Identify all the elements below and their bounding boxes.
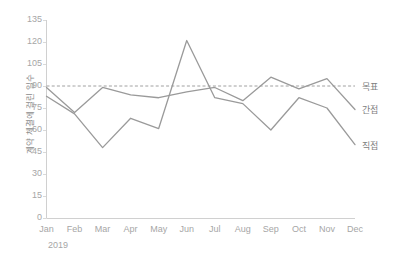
series-label-직접: 직접 [362, 139, 378, 152]
series-line-간접 [47, 77, 356, 112]
series-label-목표: 목표 [362, 80, 378, 93]
y-axis-ticks [43, 21, 47, 219]
x-axis-period-label: 2019 [48, 240, 68, 250]
x-tick-label: Dec [335, 224, 375, 234]
series-label-간접: 간접 [362, 103, 378, 116]
line-chart: 계약 체결에 걸린 일수 0153045607590105120135 JanF… [0, 0, 393, 263]
series-lines [47, 41, 356, 148]
series-line-직접 [47, 41, 356, 148]
